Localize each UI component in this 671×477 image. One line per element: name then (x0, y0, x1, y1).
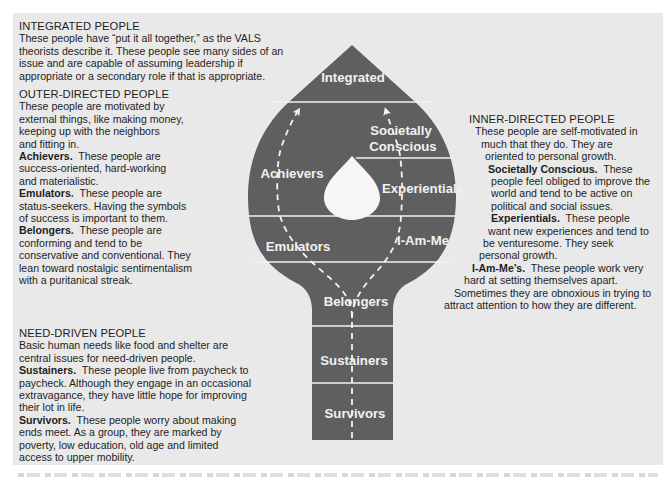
segment-label-emulators: Emulators (266, 239, 331, 254)
segment-label-sustainers: Sustainers (320, 353, 387, 368)
segment-label-i-am-me: I-Am-Me (397, 233, 449, 248)
segment-label-survivors: Survivors (325, 406, 386, 421)
vals-lifestyle-diagram: Integrated Achievers Societally Consciou… (0, 0, 671, 477)
segment-label-societally-conscious-2: Conscious (369, 139, 436, 154)
segment-label-belongers: Belongers (324, 294, 389, 309)
segment-label-integrated: Integrated (321, 70, 385, 85)
segment-label-achievers: Achievers (260, 166, 323, 181)
segment-label-experientials: Experientials (382, 181, 464, 196)
cropped-caption (18, 470, 658, 477)
segment-label-societally-conscious-1: Societally (370, 123, 432, 138)
